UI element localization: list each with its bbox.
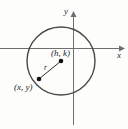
y-axis-label: y <box>63 6 68 16</box>
x-axis-label: x <box>116 50 121 60</box>
circle-point-label: (x, y) <box>14 82 32 92</box>
radius-label: r <box>44 63 47 72</box>
center-point-label: (h, k) <box>51 48 70 58</box>
radius-segment <box>39 61 61 79</box>
center-point-dot <box>59 59 64 64</box>
y-axis-group: y <box>63 6 77 125</box>
circle-point-dot <box>37 77 42 82</box>
circle-diagram-figure: x y (h, k) (x, y) r <box>0 0 128 129</box>
y-axis-arrowhead <box>71 11 77 17</box>
coordinate-plane-svg: x y (h, k) (x, y) r <box>0 0 128 129</box>
